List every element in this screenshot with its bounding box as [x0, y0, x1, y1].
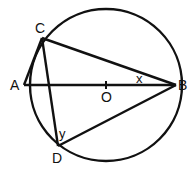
angle-x-label: x: [136, 71, 143, 86]
chord-db: [58, 85, 176, 146]
label-o: O: [101, 89, 112, 105]
angle-y-label: y: [59, 126, 66, 141]
label-a: A: [10, 77, 20, 93]
label-d: D: [52, 150, 62, 166]
chord-ac: [24, 38, 42, 85]
geometry-diagram: A B C D O x y: [0, 0, 194, 172]
label-b: B: [178, 77, 187, 93]
chord-cb: [42, 38, 176, 85]
label-c: C: [35, 20, 45, 36]
